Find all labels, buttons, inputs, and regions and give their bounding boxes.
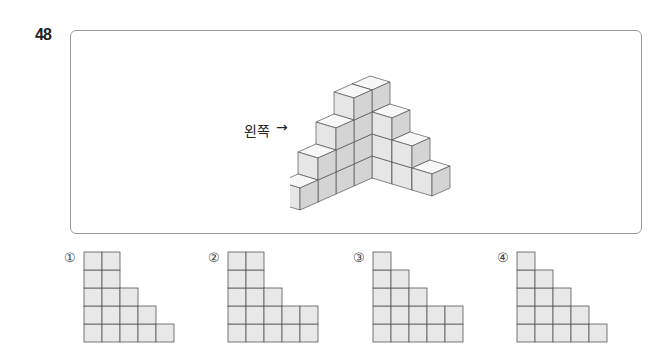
option-2-mark: ② — [208, 250, 220, 265]
option-1-grid — [82, 250, 182, 346]
direction-label: 왼쪽 — [244, 120, 270, 140]
option-4-mark: ④ — [497, 250, 509, 265]
arrow-right-icon: → — [276, 119, 288, 135]
option-2-grid — [226, 250, 326, 346]
option-3-mark: ③ — [353, 250, 365, 265]
option-4-grid — [515, 250, 615, 346]
option-1-mark: ① — [64, 250, 76, 265]
question-number: 48 — [35, 26, 51, 44]
cube-stack-figure — [290, 44, 480, 224]
option-3-grid — [371, 250, 471, 346]
